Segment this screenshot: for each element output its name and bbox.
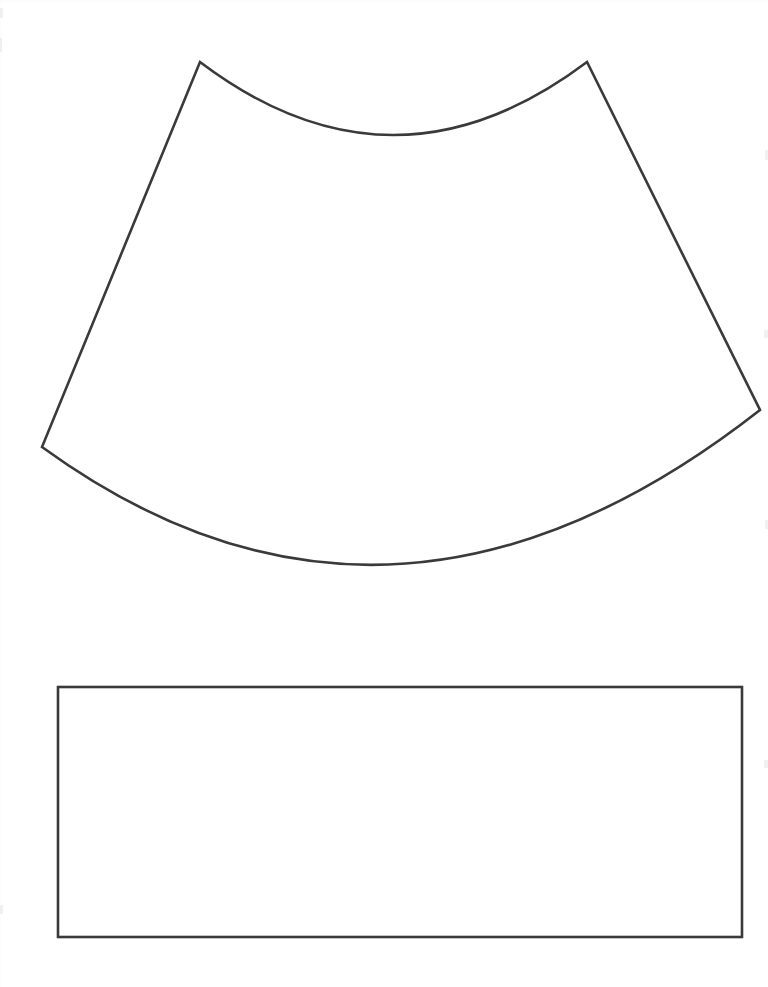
pattern-sheet xyxy=(0,0,768,987)
rectangle-pattern-group xyxy=(58,687,742,937)
pattern-drawing-canvas xyxy=(0,0,768,987)
annular-sector-pattern xyxy=(42,62,760,565)
rectangle-pattern xyxy=(58,687,742,937)
annular-sector-pattern-group xyxy=(42,62,760,565)
